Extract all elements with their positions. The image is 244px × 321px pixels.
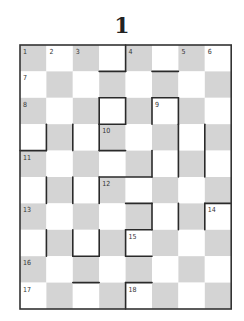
grid-cell[interactable] [73, 283, 99, 309]
clue-number: 7 [23, 74, 27, 82]
grid-cell[interactable] [152, 283, 178, 309]
grid-cell[interactable] [205, 98, 231, 124]
grid-cell[interactable] [205, 283, 231, 309]
grid-cell[interactable] [46, 283, 72, 309]
grid-cell[interactable] [178, 124, 204, 150]
grid-cell[interactable] [20, 177, 46, 203]
grid-cell[interactable] [99, 71, 125, 97]
grid-cell[interactable] [205, 71, 231, 97]
crossword-grid[interactable]: 123456789101112131415161718 [0, 0, 244, 321]
grid-cell[interactable] [46, 151, 72, 177]
grid-cell[interactable] [46, 71, 72, 97]
clue-number: 15 [129, 233, 137, 241]
clue-number: 2 [49, 48, 53, 56]
grid-cell[interactable] [152, 71, 178, 97]
grid-cell[interactable] [73, 256, 99, 282]
grid-cell[interactable] [205, 177, 231, 203]
grid-cell[interactable] [178, 151, 204, 177]
clue-number: 16 [23, 259, 31, 267]
grid-cell[interactable] [126, 98, 152, 124]
clue-number: 6 [208, 48, 212, 56]
grid-cell[interactable] [99, 45, 125, 71]
clue-number: 14 [208, 206, 216, 214]
clue-number: 10 [102, 127, 110, 135]
grid-cell[interactable] [99, 230, 125, 256]
clue-number: 5 [181, 48, 185, 56]
grid-cell[interactable] [178, 283, 204, 309]
grid-cell[interactable] [152, 45, 178, 71]
grid-cell[interactable] [126, 256, 152, 282]
grid-cell[interactable] [152, 256, 178, 282]
grid-cell[interactable] [178, 177, 204, 203]
grid-cell[interactable] [205, 256, 231, 282]
grid-cell[interactable] [20, 230, 46, 256]
grid-cell[interactable] [205, 151, 231, 177]
clue-number: 1 [23, 48, 27, 56]
grid-cell[interactable] [46, 98, 72, 124]
grid-cell[interactable] [73, 124, 99, 150]
grid-cell[interactable] [152, 124, 178, 150]
grid-cell[interactable] [46, 256, 72, 282]
clue-number: 3 [76, 48, 80, 56]
grid-cell[interactable] [73, 71, 99, 97]
grid-cell[interactable] [152, 230, 178, 256]
clue-number: 12 [102, 180, 110, 188]
grid-cell[interactable] [46, 203, 72, 229]
grid-cell[interactable] [152, 177, 178, 203]
grid-cell[interactable] [205, 230, 231, 256]
clue-number: 11 [23, 154, 31, 162]
clue-number: 18 [129, 286, 137, 294]
grid-cell[interactable] [73, 151, 99, 177]
clue-number: 13 [23, 206, 31, 214]
grid-cell[interactable] [178, 230, 204, 256]
grid-cell[interactable] [20, 124, 46, 150]
grid-cell[interactable] [178, 256, 204, 282]
clue-number: 17 [23, 286, 31, 294]
grid-cell[interactable] [99, 98, 125, 124]
grid-cell[interactable] [178, 71, 204, 97]
grid-cell[interactable] [99, 283, 125, 309]
clue-number: 4 [129, 48, 133, 56]
grid-cell[interactable] [126, 124, 152, 150]
grid-cell[interactable] [178, 203, 204, 229]
grid-cell[interactable] [126, 151, 152, 177]
grid-cell[interactable] [73, 230, 99, 256]
grid-cell[interactable] [126, 71, 152, 97]
grid-cell[interactable] [46, 124, 72, 150]
grid-cell[interactable] [205, 124, 231, 150]
grid-cell[interactable] [99, 151, 125, 177]
grid-cell[interactable] [99, 256, 125, 282]
grid-cell[interactable] [152, 203, 178, 229]
grid-cell[interactable] [73, 177, 99, 203]
grid-cell[interactable] [126, 203, 152, 229]
grid-cell[interactable] [178, 98, 204, 124]
grid-cell[interactable] [46, 177, 72, 203]
grid-cell[interactable] [152, 151, 178, 177]
grid-cell[interactable] [126, 177, 152, 203]
grid-cell[interactable] [99, 203, 125, 229]
grid-cell[interactable] [46, 230, 72, 256]
grid-cell[interactable] [73, 203, 99, 229]
clue-number: 9 [155, 101, 159, 109]
grid-cell[interactable] [73, 98, 99, 124]
clue-number: 8 [23, 101, 27, 109]
